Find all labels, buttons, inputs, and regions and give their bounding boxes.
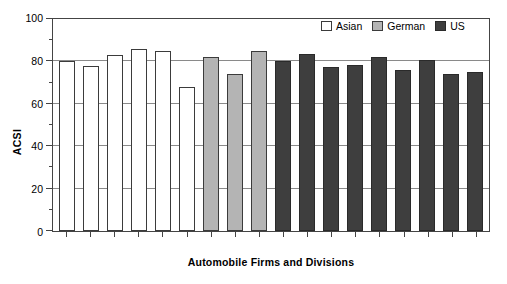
legend-item-us[interactable]: US <box>435 21 465 32</box>
legend-item-asian[interactable]: Asian <box>321 21 362 32</box>
bar-12-us[interactable] <box>323 67 339 231</box>
bar-slot <box>151 19 175 231</box>
x-tick-6 <box>175 232 199 238</box>
y-tick-label-100: 100 <box>25 13 43 24</box>
bar-2-asian[interactable] <box>83 66 99 231</box>
bar-series <box>53 19 489 231</box>
bar-18-us[interactable] <box>467 72 483 231</box>
x-tick-17 <box>440 232 464 238</box>
y-tick-major-20 <box>46 188 53 189</box>
bar-slot <box>439 19 463 231</box>
y-tick-label-80: 80 <box>31 56 43 67</box>
x-tick-9 <box>247 232 271 238</box>
bar-10-us[interactable] <box>275 61 291 231</box>
bar-7-german[interactable] <box>203 57 219 231</box>
x-axis-title: Automobile Firms and Divisions <box>52 256 490 268</box>
y-axis-title: ACSI <box>11 129 23 155</box>
x-tick-15 <box>392 232 416 238</box>
bar-14-us[interactable] <box>371 57 387 231</box>
chart-legend: AsianGermanUS <box>318 20 468 33</box>
bar-slot <box>247 19 271 231</box>
x-tick-11 <box>295 232 319 238</box>
legend-label-us: US <box>450 21 465 32</box>
x-tick-16 <box>416 232 440 238</box>
x-tick-7 <box>199 232 223 238</box>
y-tick-label-60: 60 <box>31 98 43 109</box>
y-tick-major-60 <box>46 103 53 104</box>
bar-slot <box>103 19 127 231</box>
bar-slot <box>367 19 391 231</box>
x-axis-ticks <box>52 232 490 238</box>
bar-slot <box>415 19 439 231</box>
bar-6-asian[interactable] <box>179 87 195 231</box>
bar-slot <box>175 19 199 231</box>
bar-slot <box>199 19 223 231</box>
bar-slot <box>79 19 103 231</box>
bar-9-german[interactable] <box>251 51 267 231</box>
bar-11-us[interactable] <box>299 54 315 231</box>
bar-16-us[interactable] <box>419 60 435 231</box>
legend-label-asian: Asian <box>336 21 362 32</box>
x-tick-10 <box>271 232 295 238</box>
y-tick-major-80 <box>46 60 53 61</box>
x-tick-3 <box>102 232 126 238</box>
x-tick-4 <box>126 232 150 238</box>
bar-15-us[interactable] <box>395 70 411 231</box>
bar-slot <box>391 19 415 231</box>
y-tick-label-0: 0 <box>37 227 43 238</box>
legend-item-german[interactable]: German <box>372 21 425 32</box>
bar-8-german[interactable] <box>227 74 243 231</box>
bar-slot <box>55 19 79 231</box>
bar-slot <box>223 19 247 231</box>
white-square-icon <box>321 21 332 31</box>
y-tick-major-0 <box>46 230 53 231</box>
x-tick-5 <box>150 232 174 238</box>
x-tick-8 <box>223 232 247 238</box>
legend-label-german: German <box>387 21 425 32</box>
y-tick-label-20: 20 <box>31 184 43 195</box>
bar-slot <box>343 19 367 231</box>
plot-area <box>52 18 490 232</box>
y-tick-label-40: 40 <box>31 141 43 152</box>
gray-square-icon <box>372 21 383 31</box>
x-tick-18 <box>464 232 488 238</box>
bar-slot <box>127 19 151 231</box>
bar-3-asian[interactable] <box>107 55 123 231</box>
x-tick-12 <box>319 232 343 238</box>
bar-17-us[interactable] <box>443 74 459 231</box>
bar-slot <box>319 19 343 231</box>
bar-slot <box>271 19 295 231</box>
bar-1-asian[interactable] <box>59 61 75 231</box>
bar-slot <box>463 19 487 231</box>
y-tick-major-100 <box>46 18 53 19</box>
bar-4-asian[interactable] <box>131 49 147 231</box>
bar-5-asian[interactable] <box>155 51 171 231</box>
bar-slot <box>295 19 319 231</box>
chart-canvas: ACSI 020406080100 Automobile Firms and D… <box>0 0 507 284</box>
bar-13-us[interactable] <box>347 65 363 231</box>
dark-square-icon <box>435 21 446 31</box>
x-tick-2 <box>78 232 102 238</box>
x-tick-1 <box>54 232 78 238</box>
x-tick-14 <box>367 232 391 238</box>
x-tick-13 <box>343 232 367 238</box>
y-tick-major-40 <box>46 145 53 146</box>
